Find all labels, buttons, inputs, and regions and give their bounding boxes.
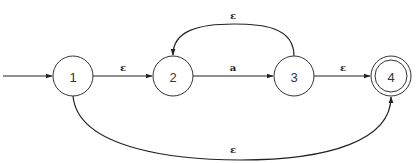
transition-label: ε — [230, 144, 236, 155]
transition-label: ε — [230, 10, 236, 21]
state-4-accepting: 4 — [371, 56, 411, 96]
nfa-diagram: ε a ε ε ε 1 2 3 4 — [0, 0, 417, 163]
transition-3-2: ε — [173, 10, 294, 56]
state-label: 4 — [387, 70, 394, 85]
transition-2-3: a — [193, 62, 273, 76]
transition-label: ε — [120, 62, 126, 73]
transition-label: ε — [340, 62, 346, 73]
state-label: 2 — [169, 70, 176, 85]
state-2: 2 — [153, 56, 193, 96]
state-label: 3 — [290, 70, 297, 85]
state-label: 1 — [69, 70, 76, 85]
transition-label: a — [230, 62, 237, 73]
transition-3-4: ε — [314, 62, 370, 76]
transition-1-2: ε — [93, 62, 152, 76]
transition-1-4: ε — [73, 96, 391, 160]
state-1: 1 — [53, 56, 93, 96]
state-3: 3 — [274, 56, 314, 96]
